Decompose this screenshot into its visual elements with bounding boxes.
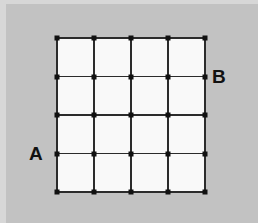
point-label-b: B [212,67,226,86]
grid-node-2-3 [129,151,134,156]
grid-node-3-2 [166,113,171,118]
grid-node-4-3 [203,151,208,156]
grid-node-3-3 [166,151,171,156]
grid-node-0-2 [55,113,60,118]
diagram-canvas: A B [0,0,258,223]
grid-node-1-4 [92,190,97,195]
grid-node-0-3 [55,151,60,156]
grid-node-0-0 [55,36,60,41]
grid-node-2-4 [129,190,134,195]
grid-node-2-0 [129,36,134,41]
grid-node-2-1 [129,74,134,79]
grid-node-2-2 [129,113,134,118]
grid-node-1-2 [92,113,97,118]
grid-node-3-1 [166,74,171,79]
grid-node-0-1 [55,74,60,79]
grid-node-4-2 [203,113,208,118]
grid-node-4-1 [203,74,208,79]
grid-node-4-0 [203,36,208,41]
grid-node-1-3 [92,151,97,156]
point-label-a: A [29,144,43,163]
grid-node-1-1 [92,74,97,79]
grid-node-0-4 [55,190,60,195]
grid-node-3-0 [166,36,171,41]
grid-node-1-0 [92,36,97,41]
lattice-grid [57,38,205,192]
grid-node-4-4 [203,190,208,195]
grid-node-3-4 [166,190,171,195]
